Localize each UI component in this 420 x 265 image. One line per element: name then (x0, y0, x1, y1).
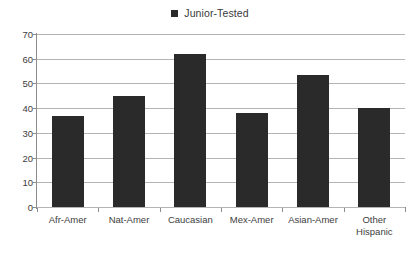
y-axis-tick-label: 70 (5, 29, 33, 40)
x-axis-tick-labels: Afr-AmerNat-AmerCaucasianMex-AmerAsian-A… (37, 214, 405, 254)
bar (52, 116, 84, 207)
y-axis-tick-label: 30 (5, 127, 33, 138)
y-axis-tick-label: 0 (5, 202, 33, 213)
bar (236, 113, 268, 207)
x-axis-tick-label: Mex-Amer (221, 214, 282, 226)
chart-legend: Junior-Tested (0, 4, 420, 22)
x-axis-tick-label: Other Hispanic (344, 214, 405, 238)
legend-swatch-icon (171, 10, 178, 17)
x-axis-tick-mark (160, 208, 161, 212)
bar (174, 54, 206, 207)
y-axis-tick-label: 10 (5, 177, 33, 188)
legend-label-junior-tested: Junior-Tested (184, 7, 248, 19)
x-axis-tick-label: Asian-Amer (282, 214, 343, 226)
y-axis-tick-labels: 010203040506070 (0, 0, 33, 265)
bar (113, 96, 145, 207)
x-axis-tick-mark (344, 208, 345, 212)
x-axis-tick-mark (221, 208, 222, 212)
y-axis-tick-label: 20 (5, 152, 33, 163)
y-axis-tick-label: 40 (5, 103, 33, 114)
x-axis-tick-mark (37, 208, 38, 212)
bar (358, 108, 390, 207)
bar (297, 75, 329, 207)
x-axis-tick-label: Afr-Amer (37, 214, 98, 226)
y-axis-tick-label: 60 (5, 53, 33, 64)
y-axis-tick-label: 50 (5, 78, 33, 89)
bar-chart: Junior-Tested 010203040506070 Afr-AmerNa… (0, 0, 420, 265)
x-axis-tick-label: Nat-Amer (98, 214, 159, 226)
x-axis-tick-mark (98, 208, 99, 212)
bar-series-junior-tested (37, 34, 405, 207)
x-axis-tick-label: Caucasian (160, 214, 221, 226)
x-axis-tick-mark (282, 208, 283, 212)
x-axis-tick-mark (405, 208, 406, 212)
